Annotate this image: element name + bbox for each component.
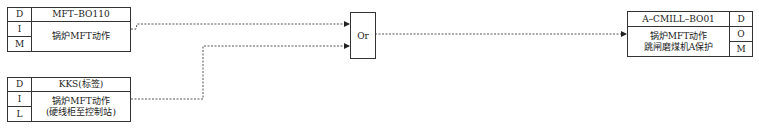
input-block-kks: D I L KKS(标签) 锅炉MFT动作 (硬线柜至控制站) [7,77,131,122]
tag-label: MFT–BO110 [31,7,131,22]
description: 锅炉MFT动作 [31,21,131,52]
flag-i: I [7,21,32,37]
gate-label: Or [357,31,369,41]
flag-d: D [7,7,32,22]
wire-input2-to-or [131,46,349,99]
description-line1: 锅炉MFT动作 [650,31,707,42]
description-line2: (硬线柜至控制站) [46,107,116,118]
flag-m: M [7,36,32,52]
description: 锅炉MFT动作 跳闸磨煤机A保护 [627,26,730,57]
flag-o: O [729,26,753,42]
flag-d: D [729,11,753,27]
or-gate: Or [350,12,376,59]
description-line1: 锅炉MFT动作 [52,31,109,42]
description: 锅炉MFT动作 (硬线柜至控制站) [31,91,131,122]
flag-m: M [729,41,753,57]
description-line2: 跳闸磨煤机A保护 [644,42,714,53]
flag-d: D [7,77,32,92]
tag-label: KKS(标签) [31,77,131,92]
tag-label: A–CMILL–BO01 [627,11,730,27]
output-block-a-cmill-bo01: A–CMILL–BO01 锅炉MFT动作 跳闸磨煤机A保护 D O M [627,11,753,57]
description-line1: 锅炉MFT动作 [52,96,109,107]
flag-l: L [7,106,32,122]
wire-input1-to-or [131,24,349,29]
flag-i: I [7,91,32,107]
input-block-mft-bo110: D I M MFT–BO110 锅炉MFT动作 [7,7,131,52]
